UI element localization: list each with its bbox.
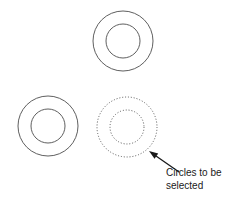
annotation-label: Circles to be selected bbox=[166, 167, 244, 192]
annotation-label-line2: selected bbox=[166, 180, 244, 193]
annotation-label-line1: Circles to be bbox=[166, 167, 244, 180]
